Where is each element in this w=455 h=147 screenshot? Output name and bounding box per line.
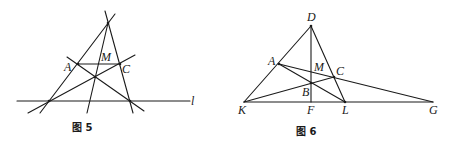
point-intersection (94, 76, 97, 79)
label-b: B (302, 85, 310, 99)
label-k: K (237, 103, 247, 117)
label-g: G (429, 103, 438, 117)
label-m: M (313, 60, 325, 74)
label-a: A (63, 60, 72, 74)
segment-kd (244, 26, 311, 102)
geometry-diagrams: A M C l 图 5 D A M C B K F L G 图 6 (0, 0, 455, 147)
caption-figure-6: 图 6 (296, 126, 316, 137)
point-c (333, 76, 336, 79)
label-l: L (341, 103, 349, 117)
apex-point (107, 22, 110, 25)
segment-kc (244, 77, 334, 102)
label-a: A (267, 54, 276, 68)
figure-6: D A M C B K F L G 图 6 (237, 10, 438, 137)
label-c: C (122, 62, 131, 76)
caption-figure-5: 图 5 (72, 122, 92, 133)
label-d: D (306, 10, 316, 24)
point-c (119, 63, 122, 66)
point-a (77, 63, 80, 66)
label-l: l (191, 94, 195, 108)
label-m: M (100, 50, 112, 64)
point-right-base (129, 100, 132, 103)
label-c: C (336, 64, 345, 78)
point-d (310, 25, 313, 28)
label-f: F (306, 103, 315, 117)
figure-5: A M C l 图 5 (17, 11, 195, 133)
point-b (310, 82, 313, 85)
point-a (278, 63, 281, 66)
point-left-base (48, 100, 51, 103)
